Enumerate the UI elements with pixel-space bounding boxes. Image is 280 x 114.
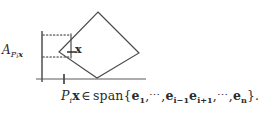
- element-of-icon: ∈: [80, 88, 92, 103]
- period: .: [255, 88, 259, 103]
- ellipsis-1: ⋯: [149, 89, 161, 102]
- e-i-plus-1: e: [189, 88, 197, 103]
- close-brace: }: [247, 88, 255, 103]
- open-brace: {: [123, 88, 131, 103]
- p-symbol: P: [61, 88, 70, 103]
- e-1: e: [132, 88, 140, 103]
- ellipsis-2: ⋯: [217, 89, 229, 102]
- vector-x-label: x: [75, 44, 82, 55]
- a-pix-base: A: [2, 43, 11, 57]
- e-i-minus-1-sub: i−1: [173, 95, 189, 105]
- geometry-figure: APix x Pix∈span{e1,⋯,ei−1ei+1,⋯,en}.: [0, 0, 280, 114]
- x-symbol: x: [72, 88, 80, 103]
- span-equation: Pix∈span{e1,⋯,ei−1ei+1,⋯,en}.: [61, 90, 259, 105]
- e-i-plus-1-sub: i+1: [197, 95, 213, 105]
- a-pix-sub-x: x: [18, 49, 23, 59]
- span-word: span: [92, 88, 123, 103]
- a-pix-label: APix: [2, 44, 23, 59]
- e-n: e: [233, 88, 241, 103]
